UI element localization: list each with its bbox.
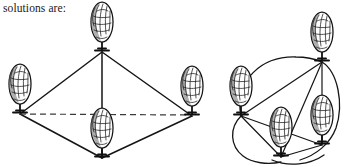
figure-page: solutions are:	[0, 0, 346, 167]
edge-top-right	[102, 52, 192, 116]
tree-node-top	[91, 2, 113, 51]
right-graph-nodes	[230, 12, 333, 156]
tree-node-top-right	[311, 12, 333, 61]
tree-node-bottom	[91, 108, 113, 157]
edge-left-bottom	[20, 114, 102, 158]
edge-top-left	[20, 52, 102, 114]
edge-right-bottom	[102, 116, 192, 158]
tree-node-left-b	[230, 66, 252, 115]
right-circular-graph	[230, 12, 340, 164]
tree-node-left	[9, 64, 31, 113]
left-graph-nodes	[9, 2, 203, 157]
tree-node-right-b	[311, 95, 333, 144]
left-diamond-graph	[9, 2, 203, 158]
tree-node-right	[181, 66, 203, 115]
graph-figure	[0, 0, 346, 167]
